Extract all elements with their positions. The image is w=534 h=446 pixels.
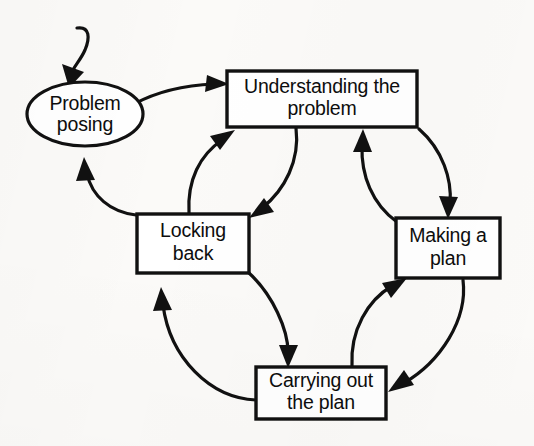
edge-carrying-out-to-making-a-plan — [352, 278, 407, 366]
edge-locking-back-to-problem-posing — [76, 157, 136, 215]
edge-making-a-plan-to-understanding — [353, 129, 397, 222]
edge-locking-back-to-understanding — [189, 130, 235, 213]
edge-understanding-to-making-a-plan — [419, 129, 458, 219]
understanding-the-problem-label-line2: problem — [287, 97, 356, 119]
problem-posing-label-line1: Problem — [49, 92, 120, 114]
edge-entry-to-problem-posing — [62, 28, 88, 88]
node-problem-posing[interactable]: Problem posing — [27, 82, 143, 146]
edge-making-a-plan-to-carrying-out — [388, 280, 464, 392]
node-making-a-plan[interactable]: Making a plan — [396, 218, 500, 278]
understanding-the-problem-label-line1: Understanding the — [244, 75, 400, 97]
locking-back-label-line2: back — [173, 242, 214, 264]
edge-carrying-out-to-locking-back — [153, 287, 256, 400]
node-locking-back[interactable]: Locking back — [137, 214, 249, 273]
making-a-plan-label-line1: Making a — [409, 224, 487, 246]
diagram-canvas: Problem posing Understanding the problem… — [0, 0, 534, 446]
edge-understanding-to-locking-back — [249, 128, 297, 218]
carrying-out-the-plan-label-line1: Carrying out — [269, 369, 374, 391]
locking-back-label-line1: Locking — [160, 219, 226, 241]
edge-problem-posing-to-understanding — [134, 75, 229, 104]
node-carrying-out-the-plan[interactable]: Carrying out the plan — [256, 367, 386, 419]
making-a-plan-label-line2: plan — [430, 247, 466, 269]
edge-locking-back-to-carrying-out — [249, 273, 298, 368]
diagram-svg: Problem posing Understanding the problem… — [0, 0, 534, 446]
problem-posing-label-line2: posing — [57, 113, 113, 135]
carrying-out-the-plan-label-line2: the plan — [287, 391, 355, 413]
node-understanding-the-problem[interactable]: Understanding the problem — [227, 71, 417, 127]
